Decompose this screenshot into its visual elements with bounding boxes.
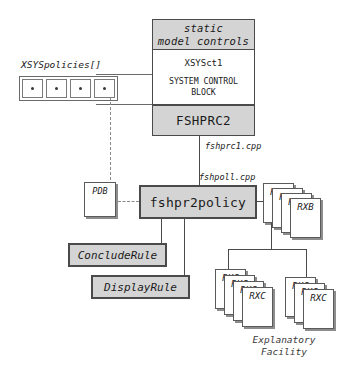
policy-cell[interactable] (70, 79, 91, 98)
pdb-label: PDB (85, 186, 115, 196)
policy-dot-icon (79, 87, 82, 90)
control-header-line1: static (158, 22, 249, 35)
fshprc2-box: FSHPRC2 (152, 105, 255, 136)
connector-rxc-bus (228, 249, 307, 250)
rxb-label: RXB (291, 202, 320, 212)
file-label-fshpoll: fshpoll.cpp (199, 172, 255, 182)
rxc-label: RXC (243, 291, 272, 301)
connector-rxc-right-branch (306, 249, 307, 277)
policies-array-label: XSYSpolicies[] (21, 59, 101, 70)
policies-array (19, 76, 118, 101)
dashed-connector-pdb-to-policy (118, 201, 139, 202)
policy-dot-icon (31, 87, 34, 90)
control-desc-line1: SYSTEM CONTROL (169, 76, 238, 87)
rxc-document: RXC (303, 289, 334, 329)
displayrule-box: DisplayRule (91, 275, 190, 299)
file-label-fshprc1: fshprc1.cpp (205, 141, 261, 151)
connector-rxc-left-branch (228, 249, 229, 271)
explanatory-facility-caption: Explanatory Facility (244, 334, 324, 358)
policy-cell[interactable] (46, 79, 67, 98)
connector-rxb-trunk (271, 223, 272, 249)
diagram-canvas: XSYSpolicies[] static model controls XSY… (0, 0, 349, 373)
control-desc-line2: BLOCK (169, 87, 238, 98)
control-header-line2: model controls (158, 35, 249, 48)
rxc-document: RXC (242, 287, 273, 327)
policy-dot-icon (103, 87, 106, 90)
policy-cell[interactable] (94, 79, 115, 98)
system-control-block-body: XSYSct1 SYSTEM CONTROL BLOCK (152, 50, 255, 105)
policy-cell[interactable] (22, 79, 43, 98)
control-class-name: XSYSct1 (185, 57, 223, 69)
explanatory-line1: Explanatory (244, 334, 324, 346)
static-model-controls-header: static model controls (152, 19, 255, 50)
explanatory-line2: Facility (244, 346, 324, 358)
policy-dot-icon (55, 87, 58, 90)
pdb-document: PDB (84, 182, 116, 217)
rxc-label: RXC (304, 293, 333, 303)
rxb-document: RXB (290, 198, 321, 238)
concluderule-box: ConcludeRule (68, 243, 167, 267)
fshpr2policy-box: fshpr2policy (139, 185, 257, 219)
